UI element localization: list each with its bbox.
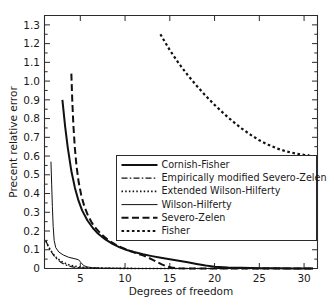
chart-legend: Cornish-FisherEmpirically modified Sever… [117, 156, 327, 241]
x-tick-label: 10 [118, 272, 131, 284]
y-tick-label: 1.0 [23, 75, 40, 87]
y-tick-label: 0.5 [23, 168, 40, 180]
x-tick-label: 30 [297, 272, 310, 284]
y-tick-label: 0.3 [23, 206, 40, 218]
x-tick-label: 25 [253, 272, 266, 284]
legend-label-5: Severo-Zelen [162, 212, 226, 223]
legend-label-2: Empirically modified Severo-Zelen [162, 172, 327, 183]
y-tick-label: 0.9 [23, 94, 40, 106]
y-tick-label: 0.4 [23, 187, 40, 199]
y-tick-label: 0.7 [23, 131, 40, 143]
y-tick-label: 0.2 [23, 225, 40, 237]
y-tick-label: 1.2 [23, 37, 40, 49]
y-tick-label: 0.8 [23, 112, 40, 124]
y-tick-label: 0 [33, 262, 40, 274]
x-tick-label: 15 [163, 272, 176, 284]
legend-label-6: Fisher [162, 225, 190, 236]
y-tick-label: 1.3 [23, 19, 40, 31]
y-tick-label: 0.6 [23, 150, 40, 162]
y-tick-label: 0.1 [23, 243, 40, 255]
legend-label-4: Wilson-Hilferty [162, 199, 233, 210]
relative-error-line-chart: 00.10.20.30.40.50.60.70.80.91.01.11.21.3… [0, 0, 334, 305]
x-axis-title: Degrees of freedom [129, 285, 234, 297]
x-tick-label: 5 [77, 272, 84, 284]
x-tick-label: 20 [208, 272, 221, 284]
legend-label-1: Cornish-Fisher [162, 159, 230, 170]
y-axis-title: Precent relative error [7, 86, 19, 198]
y-tick-label: 1.1 [23, 56, 40, 68]
legend-label-3: Extended Wilson-Hilferty [162, 185, 281, 196]
